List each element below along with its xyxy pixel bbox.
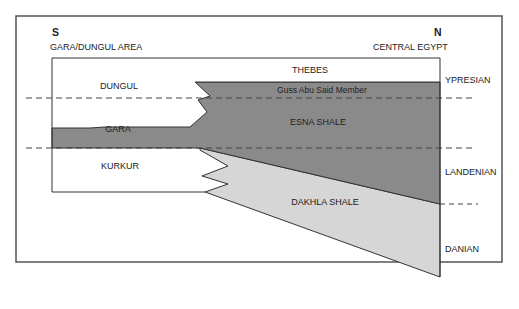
kurkur-label: KURKUR	[101, 161, 140, 171]
ypresian-label: YPRESIAN	[445, 75, 491, 85]
north-label: N	[434, 26, 442, 38]
south-label: S	[52, 26, 59, 38]
dakhla-shale-label: DAKHLA SHALE	[291, 197, 359, 207]
landenian-label: LANDENIAN	[445, 167, 497, 177]
guss-abu-said-label: Guss Abu Said Member	[277, 85, 367, 95]
left-area-label: GARA/DUNGUL AREA	[50, 42, 142, 52]
gara-label: GARA	[105, 124, 131, 134]
dungul-label: DUNGUL	[100, 81, 138, 91]
thebes-label: THEBES	[292, 65, 328, 75]
danian-label: DANIAN	[445, 244, 479, 254]
esna-shale-label: ESNA SHALE	[290, 117, 346, 127]
stratigraphic-diagram: S GARA/DUNGUL AREA N CENTRAL EGYPT THEBE…	[0, 0, 519, 309]
right-area-label: CENTRAL EGYPT	[373, 42, 448, 52]
